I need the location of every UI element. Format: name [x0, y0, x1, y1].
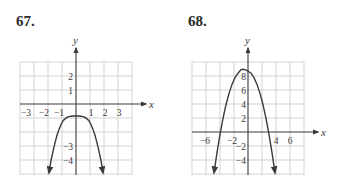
x-tick-67: −1 — [54, 108, 64, 118]
x-tick-67: 1 — [89, 108, 94, 118]
x-tick-68: −6 — [200, 136, 210, 146]
y-tick-68: −4 — [236, 156, 246, 166]
y-tick-68: 2 — [241, 114, 246, 124]
graphs-canvas: x y −3 −2 −1 1 2 3 2 1 −3 −4 — [0, 0, 343, 188]
x-tick-67: 3 — [117, 108, 122, 118]
y-tick-68: 6 — [241, 86, 246, 96]
y-axis-label-68: y — [244, 34, 250, 46]
x-tick-68: 4 — [274, 136, 279, 146]
x-tick-67: −3 — [21, 108, 31, 118]
y-tick-68: 8 — [241, 72, 246, 82]
y-tick-68: 4 — [241, 100, 246, 110]
x-tick-68: 6 — [288, 136, 293, 146]
x-tick-67: −2 — [39, 108, 49, 118]
y-tick-67: −3 — [63, 142, 73, 152]
y-tick-68: −2 — [236, 142, 246, 152]
y-tick-67: −4 — [63, 156, 73, 166]
x-axis-label-67: x — [148, 98, 154, 110]
x-axis-label-68: x — [320, 126, 326, 138]
x-tick-67: 2 — [103, 108, 108, 118]
y-axis-label-67: y — [72, 34, 78, 46]
graph-67: x y −3 −2 −1 1 2 3 2 1 −3 −4 — [20, 34, 154, 175]
graph-68: x y −6 −2 4 6 8 6 4 2 −2 −4 — [192, 34, 326, 175]
y-tick-67: 2 — [68, 72, 73, 82]
y-tick-67: 1 — [68, 86, 73, 96]
